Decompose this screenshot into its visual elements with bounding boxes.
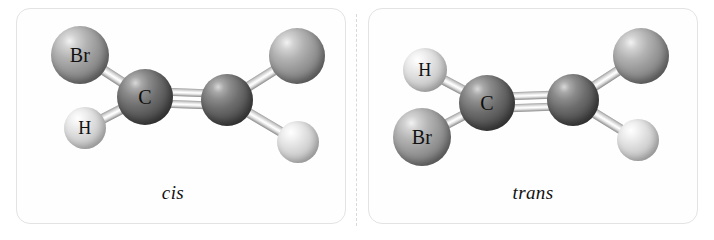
- caption-cis: cis: [0, 182, 346, 204]
- atom-label-c: C: [459, 75, 515, 131]
- atom-label-h: H: [403, 48, 447, 92]
- atom-h-trans-5: [617, 119, 659, 161]
- atom-c-trans-3: [547, 74, 599, 126]
- atom-h-trans-0: H: [403, 48, 447, 92]
- atom-label-h: H: [64, 107, 106, 149]
- atom-c-cis-3: [201, 74, 253, 126]
- atom-br-cis-0: Br: [51, 26, 109, 84]
- atom-br-trans-1: Br: [393, 108, 451, 166]
- caption-trans: trans: [368, 182, 698, 204]
- atom-label-br: Br: [51, 26, 109, 84]
- atom-br-cis-4: [269, 28, 325, 84]
- atom-label-br: Br: [393, 108, 451, 166]
- atom-h-cis-1: H: [64, 107, 106, 149]
- molecule-stage: BrHCHBrC: [0, 0, 714, 240]
- atom-c-trans-2: C: [459, 75, 515, 131]
- atom-label-c: C: [117, 69, 173, 125]
- atom-br-trans-4: [613, 28, 669, 84]
- atom-h-cis-5: [277, 121, 319, 163]
- isomer-figure: BrHCHBrC cis trans: [0, 0, 714, 240]
- atom-c-cis-2: C: [117, 69, 173, 125]
